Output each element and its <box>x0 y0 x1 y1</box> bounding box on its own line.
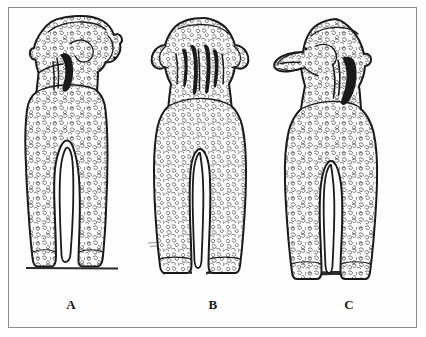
panel-label-a: A <box>56 297 86 313</box>
dog-c-illustration <box>274 18 377 279</box>
dog-b-illustration <box>148 18 248 275</box>
panel-label-c: C <box>334 297 364 313</box>
dog-c-leg-gap <box>324 165 335 273</box>
figure-plate: A B C <box>0 0 426 337</box>
dog-illustrations <box>0 0 426 337</box>
dog-a-eye <box>113 57 116 60</box>
dog-a-illustration <box>25 16 122 270</box>
dog-a-leg-gap <box>60 148 74 263</box>
panel-label-b: B <box>198 297 228 313</box>
dog-b-leg-gap <box>193 153 204 268</box>
dog-a-body-outline <box>25 16 122 267</box>
dog-c-eye <box>304 48 307 51</box>
